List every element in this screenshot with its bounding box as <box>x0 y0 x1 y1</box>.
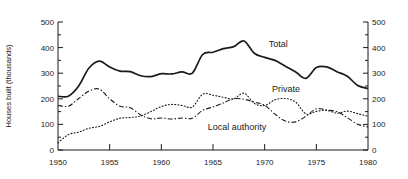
x-axis-ticks <box>110 144 317 150</box>
right-tick-label: 400 <box>372 44 386 53</box>
left-tick-label: 0 <box>50 146 55 155</box>
right-tick-label: 300 <box>372 69 386 78</box>
x-axis-tick-labels: 1950195519601965197019751980 <box>49 158 377 167</box>
left-tick-label: 400 <box>41 44 55 53</box>
series-annotation-total: Total <box>269 39 288 49</box>
left-axis-tick-labels: 0100200300400500 <box>41 18 55 155</box>
left-tick-label: 100 <box>41 120 55 129</box>
x-tick-label: 1950 <box>49 158 67 167</box>
x-tick-label: 1965 <box>204 158 222 167</box>
chart-plot-area: 0100200300400500 0100200300400500 195019… <box>0 0 408 179</box>
left-tick-label: 300 <box>41 69 55 78</box>
right-tick-label: 200 <box>372 95 386 104</box>
series-line-private <box>58 93 368 143</box>
x-tick-label: 1980 <box>359 158 377 167</box>
y-axis-title: Houses built (thousands) <box>4 44 13 127</box>
x-tick-label: 1975 <box>307 158 325 167</box>
series-annotation-private: Private <box>272 84 300 94</box>
series-line-total <box>58 41 368 97</box>
x-tick-label: 1960 <box>152 158 170 167</box>
series-annotation-local-authority: Local authority <box>208 122 267 132</box>
right-axis-tick-labels: 0100200300400500 <box>372 18 386 155</box>
left-tick-label: 500 <box>41 18 55 27</box>
right-tick-label: 500 <box>372 18 386 27</box>
x-tick-label: 1955 <box>101 158 119 167</box>
right-tick-label: 100 <box>372 120 386 129</box>
left-tick-label: 200 <box>41 95 55 104</box>
houses-built-line-chart: 0100200300400500 0100200300400500 195019… <box>0 0 408 179</box>
right-tick-label: 0 <box>372 146 377 155</box>
x-tick-label: 1970 <box>256 158 274 167</box>
